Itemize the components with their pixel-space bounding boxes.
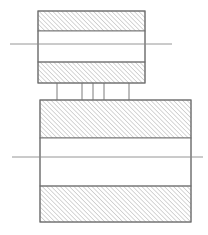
lower-block-void (40, 138, 191, 186)
upper-block-void (38, 31, 145, 62)
diagram-canvas (0, 0, 208, 235)
upper-block-top-hatch-band (38, 11, 145, 31)
cross-section-figure (0, 0, 208, 235)
upper-block-bottom-hatch-band (38, 62, 145, 83)
lower-block-bottom-hatch-band (40, 186, 191, 222)
upper-block (38, 11, 145, 83)
lower-block (40, 100, 191, 222)
lower-block-top-hatch-band (40, 100, 191, 138)
